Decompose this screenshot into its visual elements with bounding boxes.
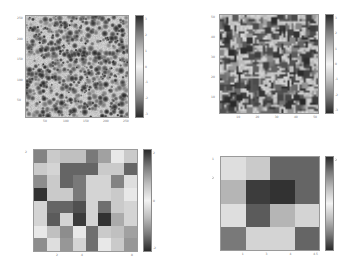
x-tick-label: 50 bbox=[43, 120, 47, 123]
x-tick-label: 4 bbox=[289, 253, 291, 256]
colorbar-tick-label: 0 bbox=[145, 66, 147, 69]
colorbar-tick-label: 0 bbox=[335, 63, 337, 66]
y-tick-label: 20 bbox=[211, 76, 215, 79]
y-tick-label: 100 bbox=[17, 79, 23, 82]
colorbar-tick-label: -1 bbox=[335, 78, 338, 81]
y-tick-label: 200 bbox=[17, 38, 23, 41]
colorbar-tick-label: 2 bbox=[335, 159, 337, 162]
heatmap-top-right bbox=[219, 14, 319, 114]
x-tick-label: 1 bbox=[242, 253, 244, 256]
x-tick-label: 4 bbox=[81, 254, 83, 257]
colorbar-tick-label: -2 bbox=[335, 94, 338, 97]
colorbar-bottom-left bbox=[143, 149, 152, 252]
x-tick-label: 150 bbox=[83, 120, 89, 123]
colorbar-tick-label: -3 bbox=[335, 109, 338, 112]
x-tick-label: 2 bbox=[56, 254, 58, 257]
y-tick-label: 10 bbox=[211, 96, 215, 99]
y-tick-label: 30 bbox=[211, 56, 215, 59]
colorbar-tick-label: 0 bbox=[153, 200, 155, 203]
x-tick-label: 30 bbox=[275, 116, 279, 119]
y-tick-label: 150 bbox=[17, 58, 23, 61]
heatmap-top-left bbox=[25, 15, 129, 118]
x-tick-label: 8 bbox=[131, 254, 133, 257]
colorbar-tick-label: -2 bbox=[145, 97, 148, 100]
x-tick-label: 50 bbox=[313, 116, 317, 119]
x-tick-label: 200 bbox=[103, 120, 109, 123]
heatmap-canvas bbox=[26, 16, 128, 117]
colorbar-top-left bbox=[135, 15, 144, 118]
colorbar-tick-label: 2 bbox=[335, 32, 337, 35]
y-tick-label: 2 bbox=[212, 177, 214, 180]
heatmap-canvas bbox=[34, 150, 137, 251]
colorbar-tick-label: 1 bbox=[145, 50, 147, 53]
colorbar-tick-label: 3 bbox=[335, 17, 337, 20]
y-tick-label: 50 bbox=[17, 99, 21, 102]
y-tick-label: 1 bbox=[212, 158, 214, 161]
x-tick-label: 250 bbox=[123, 120, 129, 123]
colorbar-tick-label: 1 bbox=[335, 48, 337, 51]
colorbar-tick-label: 2 bbox=[153, 152, 155, 155]
heatmap-canvas bbox=[220, 15, 318, 113]
colorbar-top-right bbox=[325, 14, 334, 114]
heatmap-bottom-right bbox=[220, 156, 320, 251]
colorbar-bottom-right bbox=[325, 156, 334, 251]
heatmap-bottom-left bbox=[33, 149, 138, 252]
y-tick-label: 40 bbox=[211, 36, 215, 39]
y-tick-label: 2 bbox=[25, 151, 27, 154]
colorbar-tick-label: -2 bbox=[153, 247, 156, 250]
x-tick-label: 20 bbox=[255, 116, 259, 119]
x-tick-label: 3 bbox=[266, 253, 268, 256]
y-tick-label: 250 bbox=[17, 17, 23, 20]
x-tick-label: 40 bbox=[294, 116, 298, 119]
x-tick-label: 4.5 bbox=[313, 253, 318, 256]
y-tick-label: 50 bbox=[211, 16, 215, 19]
colorbar-tick-label: 2 bbox=[145, 34, 147, 37]
x-tick-label: 100 bbox=[63, 120, 69, 123]
colorbar-tick-label: 3 bbox=[145, 18, 147, 21]
x-tick-label: 10 bbox=[236, 116, 240, 119]
colorbar-tick-label: -3 bbox=[145, 113, 148, 116]
colorbar-tick-label: -1 bbox=[145, 81, 148, 84]
heatmap-canvas bbox=[221, 157, 319, 250]
